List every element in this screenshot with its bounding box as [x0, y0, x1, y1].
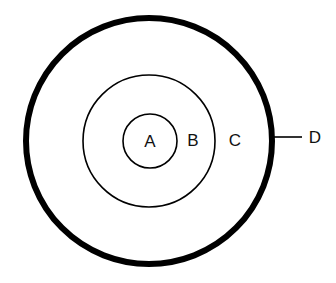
label-d: D: [309, 128, 321, 147]
label-a: A: [144, 132, 156, 151]
label-c: C: [229, 131, 241, 150]
label-b: B: [187, 131, 198, 150]
concentric-circles-diagram: A B C D: [0, 0, 336, 283]
